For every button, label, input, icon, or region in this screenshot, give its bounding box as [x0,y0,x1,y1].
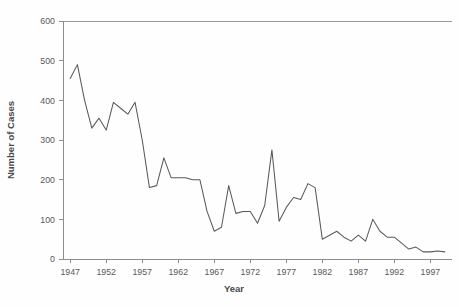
y-tick-label: 400 [40,96,55,106]
x-tick-label: 1987 [349,267,369,277]
x-tick-label: 1957 [132,267,152,277]
x-axis-ticks: 1947195219571962196719721977198219871992… [60,259,440,277]
y-tick-label: 300 [40,135,55,145]
y-tick-label: 200 [40,175,55,185]
x-tick-label: 1952 [96,267,116,277]
x-tick-label: 1992 [385,267,405,277]
x-tick-label: 1947 [60,267,80,277]
y-tick-label: 0 [50,254,55,264]
y-axis-title: Number of Cases [5,101,16,179]
y-tick-label: 600 [40,16,55,26]
x-tick-label: 1997 [421,267,441,277]
x-tick-label: 1962 [168,267,188,277]
x-tick-label: 1982 [313,267,333,277]
data-series-line [70,65,445,252]
y-tick-label: 500 [40,56,55,66]
x-tick-label: 1972 [241,267,261,277]
x-tick-label: 1967 [204,267,224,277]
x-tick-label: 1977 [277,267,297,277]
line-chart: 0100200300400500600 19471952195719621967… [0,0,459,307]
y-tick-label: 100 [40,215,55,225]
x-axis-title: Year [224,283,244,294]
chart-container: 0100200300400500600 19471952195719621967… [0,0,459,307]
y-axis-ticks: 0100200300400500600 [40,16,63,264]
